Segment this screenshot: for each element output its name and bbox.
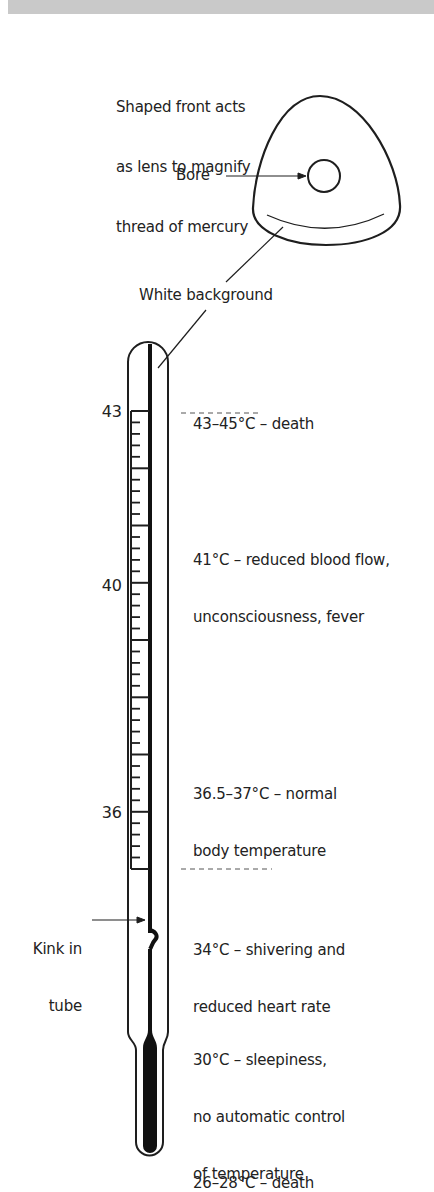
lens-outline — [253, 96, 400, 245]
effect-line: 41°C – reduced blood flow, — [193, 551, 390, 570]
effect-line: 26–28°C – death — [193, 1174, 314, 1192]
scale-label-40: 40 — [82, 577, 122, 595]
effect-41: 41°C – reduced blood flow, unconsciousne… — [193, 513, 390, 646]
white-background-leader-lower — [158, 310, 206, 368]
mercury-thread — [143, 344, 157, 1153]
effect-26-28: 26–28°C – death — [193, 1136, 314, 1192]
effect-line: 36.5–37°C – normal — [193, 785, 337, 804]
bore-circle — [308, 160, 340, 192]
scale-label-36: 36 — [82, 804, 122, 822]
effect-line: no automatic control — [193, 1108, 345, 1127]
effect-line: body temperature — [193, 842, 337, 861]
lens-caption: Shaped front acts as lens to magnify thr… — [116, 57, 250, 257]
effect-line: 43–45°C – death — [193, 415, 314, 434]
kink-label-line: tube — [20, 997, 82, 1016]
mercury-bulb — [143, 1030, 157, 1153]
effect-line: 34°C – shivering and — [193, 941, 345, 960]
effect-36-5-37: 36.5–37°C – normal body temperature — [193, 747, 337, 880]
effect-line: 30°C – sleepiness, — [193, 1051, 345, 1070]
kink-label: Kink in tube — [20, 902, 82, 1035]
cross-section-lens — [253, 96, 400, 245]
temperature-scale — [131, 411, 149, 869]
kink-arrow — [92, 917, 145, 923]
effect-43-45: 43–45°C – death — [193, 377, 314, 453]
kink-label-line: Kink in — [20, 940, 82, 959]
lens-caption-line: thread of mercury — [116, 217, 250, 237]
scale-label-43: 43 — [82, 403, 122, 421]
effect-line: unconsciousness, fever — [193, 608, 390, 627]
bore-label: Bore — [176, 166, 210, 185]
white-background-arc — [267, 214, 384, 228]
white-background-label: White background — [139, 286, 273, 305]
lens-caption-line: Shaped front acts — [116, 97, 250, 117]
